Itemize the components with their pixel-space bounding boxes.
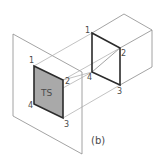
figure-caption: (b) xyxy=(91,135,105,146)
orthographic-projection-diagram: 1 2 3 4 TS 1 2 3 4 (b) xyxy=(0,0,159,159)
cube-edge-4-2 xyxy=(92,48,120,72)
panel-point-2-label: 2 xyxy=(65,77,70,86)
surface-ts-label: TS xyxy=(40,88,52,98)
panel-point-1-label: 1 xyxy=(29,56,34,65)
diagram-canvas: 1 2 3 4 TS 1 2 3 4 (b) xyxy=(0,0,159,159)
cube-top-face xyxy=(92,14,152,48)
panel-point-4-label: 4 xyxy=(28,101,33,110)
cube-point-3-label: 3 xyxy=(117,87,122,96)
projector-line-1 xyxy=(34,33,92,66)
cube-point-4-label: 4 xyxy=(87,73,92,82)
cube-point-2-label: 2 xyxy=(121,49,126,58)
cube-front-face xyxy=(92,33,120,85)
cube-point-1-label: 1 xyxy=(85,26,90,35)
panel-point-3-label: 3 xyxy=(64,120,69,129)
